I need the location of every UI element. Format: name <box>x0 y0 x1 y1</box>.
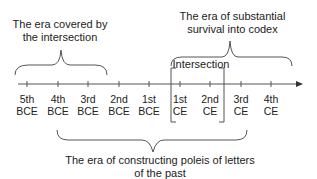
tick-label-2nd-ce: 2ndCE <box>196 93 224 117</box>
tick-label-3rd-ce: 3rdCE <box>227 93 255 117</box>
bottom-brace <box>57 130 247 152</box>
intersection-label: Intersection <box>172 58 230 71</box>
arrow-head-icon <box>296 81 303 87</box>
tick-label-4th-ce: 4thCE <box>257 93 285 117</box>
bottom-label: The era of constructing poleis of letter… <box>40 154 280 179</box>
top-left-brace <box>15 50 107 75</box>
top-left-label: The era covered by the intersection <box>5 18 115 44</box>
tick-label-1st-bce: 1stBCE <box>135 93 163 117</box>
tick-label-1st-ce: 1stCE <box>166 93 194 117</box>
tick-label-5th-bce: 5thBCE <box>13 93 41 117</box>
tick-label-4th-bce: 4thBCE <box>44 93 72 117</box>
top-right-label: The era of substantial survival into cod… <box>170 10 295 36</box>
tick-label-2nd-bce: 2ndBCE <box>105 93 133 117</box>
tick-label-3rd-bce: 3rdBCE <box>74 93 102 117</box>
